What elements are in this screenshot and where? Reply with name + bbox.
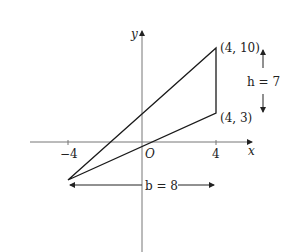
base-label: b = 8 [145,179,178,193]
height-label: h = 7 [247,75,280,89]
tick-label-neg4: −4 [60,147,78,161]
tick-label-4: 4 [212,147,220,161]
triangle-diagram: y x O −4 4 (4, 10) (4, 3) h = 7 b = 8 [0,0,303,252]
y-axis-label: y [130,27,138,41]
origin-label: O [145,147,155,161]
vertex-label-bottom: (4, 3) [220,111,252,125]
vertex-label-top: (4, 10) [220,41,260,55]
x-axis-label: x [248,144,255,158]
